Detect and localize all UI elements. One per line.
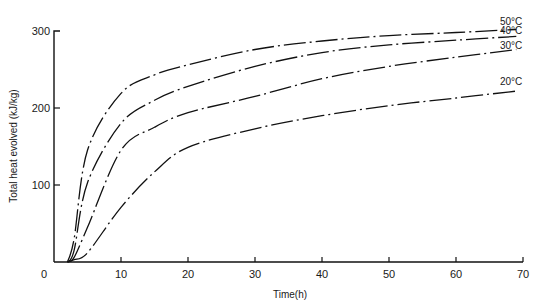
heat-evolution-chart: 010203040506070100200300 50°C40°C30°C20°… bbox=[0, 0, 538, 307]
axes: 010203040506070100200300 bbox=[32, 25, 529, 280]
series-label-20c: 20°C bbox=[500, 76, 522, 87]
x-axis-title: Time(h) bbox=[273, 289, 307, 300]
x-tick-label: 60 bbox=[450, 268, 462, 280]
x-tick-label: 20 bbox=[182, 268, 194, 280]
x-tick-label: 30 bbox=[249, 268, 261, 280]
y-tick-label: 300 bbox=[32, 25, 50, 37]
series-line-40c bbox=[67, 36, 516, 262]
x-tick-label: 10 bbox=[115, 268, 127, 280]
x-tick-label: 0 bbox=[41, 268, 47, 280]
x-tick-label: 70 bbox=[517, 268, 529, 280]
y-tick-label: 200 bbox=[32, 102, 50, 114]
series-label-30c: 30°C bbox=[500, 40, 522, 51]
x-tick-label: 50 bbox=[383, 268, 395, 280]
series-line-30c bbox=[67, 50, 516, 263]
series-label-40c: 40°C bbox=[500, 25, 522, 36]
y-axis-line bbox=[54, 31, 60, 262]
x-tick-label: 40 bbox=[316, 268, 328, 280]
series-line-20c bbox=[67, 91, 516, 262]
series-lines bbox=[67, 30, 516, 263]
y-tick-label: 100 bbox=[32, 179, 50, 191]
y-axis-title: Total heat evolved (kJ/kg) bbox=[8, 89, 19, 202]
series-line-50c bbox=[67, 30, 516, 263]
